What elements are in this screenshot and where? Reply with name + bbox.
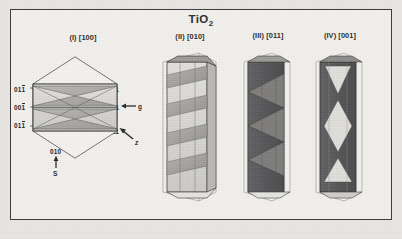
prism-bottom-cap xyxy=(320,192,362,198)
crystal-panel-4 xyxy=(316,53,362,201)
crystal-panel-1 xyxy=(30,57,136,168)
figure-container: TiO2 (I) [100] (II) [010] (III) [011] (I… xyxy=(0,0,402,239)
g-arrow xyxy=(121,104,136,109)
prism-top-cap xyxy=(320,56,362,62)
top-face xyxy=(33,57,117,84)
prism-side-face xyxy=(207,62,216,192)
s-arrow xyxy=(54,156,59,169)
bottom-face xyxy=(33,131,117,158)
crystal-panel-3 xyxy=(244,53,290,201)
z-arrow xyxy=(120,128,134,139)
prism-bottom-cap xyxy=(248,192,290,198)
prism-top-cap xyxy=(248,56,290,62)
crystal-artwork xyxy=(0,0,402,239)
crystal-panel-2 xyxy=(163,53,216,201)
